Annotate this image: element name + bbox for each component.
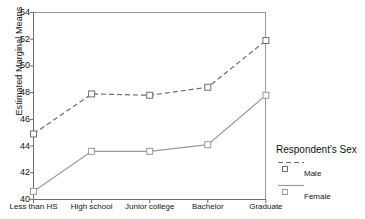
data-point (147, 148, 153, 154)
data-point (205, 84, 211, 90)
legend-label-male: Male (304, 169, 321, 178)
legend-title: Respondent's Sex (276, 144, 365, 155)
legend: Respondent's Sex Male Female (276, 144, 365, 206)
legend-label-female: Female (304, 192, 331, 201)
legend-item-female[interactable]: Female (276, 183, 365, 206)
data-point (31, 131, 37, 137)
x-tick-high-school: High school (71, 203, 113, 211)
data-point (205, 142, 211, 148)
legend-item-male[interactable]: Male (276, 160, 365, 183)
series-markers-male (31, 38, 269, 137)
data-point (31, 188, 37, 194)
data-point (89, 148, 95, 154)
x-tick-bachelor: Bachelor (192, 203, 224, 211)
legend-swatch-male (278, 160, 304, 172)
x-tick-less-than-hs: Less than HS (9, 203, 57, 211)
x-tick-junior-college: Junior college (125, 203, 174, 211)
chart-container: Estimated Marginal Means 54 52 50 48 46 … (0, 0, 365, 219)
data-point (263, 38, 269, 44)
data-point (89, 91, 95, 97)
series-line-male (34, 41, 266, 134)
y-tick-marks (30, 13, 34, 200)
legend-swatch-female (278, 183, 304, 195)
data-point (263, 92, 269, 98)
series-markers-female (31, 92, 269, 194)
data-point (147, 92, 153, 98)
